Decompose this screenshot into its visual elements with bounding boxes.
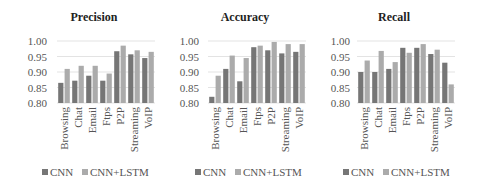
y-tick-label: 0.95 xyxy=(28,51,48,63)
bar-cnn-p2p xyxy=(114,51,119,103)
y-tick-label: 1.00 xyxy=(28,35,48,47)
y-tick-label: 0.90 xyxy=(180,66,200,78)
x-tick-label: P2P xyxy=(114,107,126,125)
bar-cnn-lstm-ftps xyxy=(107,74,112,103)
bar-cnn-ftps xyxy=(251,47,256,103)
x-tick-label: P2P xyxy=(414,107,426,125)
bar-cnn-lstm-p2p xyxy=(121,46,126,103)
x-tick-label: Browsing xyxy=(358,107,370,150)
bar-cnn-lstm-chat xyxy=(379,51,384,103)
x-tick-label: Chat xyxy=(72,107,84,128)
bar-cnn-streaming xyxy=(279,53,284,103)
y-tick-label: 0.80 xyxy=(180,97,200,109)
x-tick-label: VoIP xyxy=(442,107,454,129)
y-tick-label: 0.80 xyxy=(28,97,48,109)
y-tick-label: 0.95 xyxy=(180,51,200,63)
bar-cnn-email xyxy=(237,81,242,103)
bar-cnn-streaming xyxy=(128,54,133,103)
chart-title: Accuracy xyxy=(221,10,270,24)
bar-cnn-lstm-email xyxy=(393,62,398,103)
bar-cnn-chat xyxy=(223,69,228,103)
x-tick-label: Chat xyxy=(223,107,235,128)
bar-cnn-ftps xyxy=(400,48,405,103)
bar-cnn-lstm-p2p xyxy=(421,44,426,103)
bar-cnn-ftps xyxy=(100,81,105,103)
x-tick-label: VoIP xyxy=(142,107,154,129)
y-tick-label: 1.00 xyxy=(180,35,200,47)
bar-cnn-browsing xyxy=(58,83,63,103)
legend-swatch-cnn xyxy=(195,169,201,175)
y-tick-label: 0.90 xyxy=(28,66,48,78)
x-tick-label: VoIP xyxy=(293,107,305,129)
x-tick-label: Email xyxy=(86,107,98,133)
legend-label: CNN xyxy=(50,166,73,178)
y-tick-label: 0.90 xyxy=(331,66,351,78)
bar-cnn-lstm-streaming xyxy=(135,50,140,103)
bar-cnn-lstm-browsing xyxy=(216,76,221,103)
bar-cnn-lstm-voip xyxy=(300,44,305,103)
chart-figure: Precision0.800.850.900.951.00BrowsingCha… xyxy=(0,0,477,188)
y-tick-label: 0.85 xyxy=(180,82,200,94)
bar-cnn-lstm-email xyxy=(93,66,98,103)
chart-panel-precision: Precision0.800.850.900.951.00BrowsingCha… xyxy=(28,10,155,178)
chart-panel-accuracy: Accuracy0.800.850.900.951.00BrowsingChat… xyxy=(180,10,306,178)
legend-swatch-cnn-lstm xyxy=(82,169,88,175)
x-tick-label: Email xyxy=(237,107,249,133)
bar-cnn-lstm-ftps xyxy=(407,53,412,103)
chart-panel-recall: Recall0.800.850.900.951.00BrowsingChatEm… xyxy=(331,10,455,178)
y-tick-label: 0.85 xyxy=(331,82,351,94)
legend-swatch-cnn-lstm xyxy=(235,169,241,175)
bar-cnn-lstm-email xyxy=(244,58,249,103)
bar-cnn-lstm-browsing xyxy=(65,69,70,103)
bar-cnn-browsing xyxy=(209,97,214,103)
bar-cnn-lstm-ftps xyxy=(258,46,263,103)
legend-swatch-cnn xyxy=(343,169,349,175)
x-tick-label: Streaming xyxy=(428,107,440,153)
bar-cnn-voip xyxy=(142,58,147,103)
bar-cnn-email xyxy=(86,76,91,103)
y-tick-label: 0.80 xyxy=(331,97,351,109)
x-tick-label: Ftps xyxy=(251,107,263,126)
x-tick-label: Streaming xyxy=(128,107,140,153)
bar-cnn-chat xyxy=(72,81,77,103)
x-tick-label: Browsing xyxy=(209,107,221,150)
bar-cnn-chat xyxy=(372,72,377,103)
chart-title: Precision xyxy=(70,10,117,24)
y-tick-label: 1.00 xyxy=(331,35,351,47)
bar-cnn-voip xyxy=(293,52,298,103)
x-tick-label: Browsing xyxy=(58,107,70,150)
bar-cnn-lstm-streaming xyxy=(435,50,440,103)
bar-cnn-lstm-chat xyxy=(230,56,235,103)
x-tick-label: Chat xyxy=(372,107,384,128)
x-tick-label: Email xyxy=(386,107,398,133)
x-tick-label: Ftps xyxy=(100,107,112,126)
bar-cnn-browsing xyxy=(358,72,363,103)
x-tick-label: Streaming xyxy=(279,107,291,153)
bar-cnn-p2p xyxy=(265,50,270,103)
legend-label: CNN xyxy=(203,166,226,178)
bar-cnn-lstm-p2p xyxy=(272,42,277,103)
bar-cnn-p2p xyxy=(414,48,419,103)
y-tick-label: 0.95 xyxy=(331,51,351,63)
legend-swatch-cnn-lstm xyxy=(383,169,389,175)
legend-label: CNN+LSTM xyxy=(90,166,149,178)
legend-label: CNN+LSTM xyxy=(243,166,302,178)
bar-cnn-lstm-streaming xyxy=(286,44,291,103)
bar-cnn-streaming xyxy=(428,54,433,103)
x-tick-label: P2P xyxy=(265,107,277,125)
x-tick-label: Ftps xyxy=(400,107,412,126)
bar-cnn-lstm-voip xyxy=(149,52,154,103)
legend-label: CNN xyxy=(351,166,374,178)
bar-cnn-lstm-browsing xyxy=(365,61,370,103)
bar-cnn-lstm-chat xyxy=(79,66,84,103)
bar-cnn-email xyxy=(386,69,391,103)
bar-cnn-voip xyxy=(442,63,447,103)
bar-cnn-lstm-voip xyxy=(449,84,454,103)
legend-swatch-cnn xyxy=(42,169,48,175)
y-tick-label: 0.85 xyxy=(28,82,48,94)
legend-label: CNN+LSTM xyxy=(391,166,450,178)
chart-title: Recall xyxy=(378,10,411,24)
